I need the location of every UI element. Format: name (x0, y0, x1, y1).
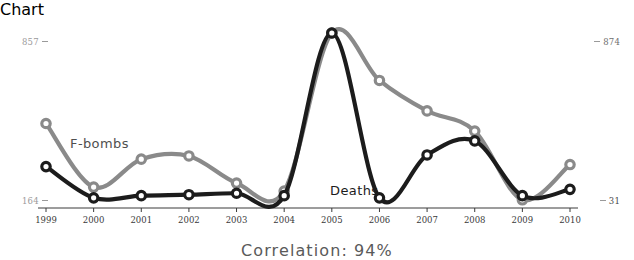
data-point-marker (471, 137, 479, 145)
series-label-deaths: Deaths (330, 183, 378, 198)
series-f-bombs (42, 29, 574, 204)
data-point-marker (232, 189, 240, 197)
x-tick-label: 2008 (464, 215, 486, 225)
data-point-marker (42, 162, 50, 170)
x-tick-label: 2009 (512, 215, 534, 225)
x-tick-label: 2002 (178, 215, 200, 225)
data-point-marker (328, 29, 336, 37)
data-point-marker (232, 179, 240, 187)
x-tick-label: 2005 (321, 215, 343, 225)
x-tick-label: 2001 (130, 215, 152, 225)
data-point-marker (423, 151, 431, 159)
data-point-marker (566, 185, 574, 193)
data-point-marker (42, 119, 50, 127)
x-tick-label: 2006 (369, 215, 391, 225)
x-tick-label: 2003 (226, 215, 248, 225)
data-point-marker (566, 160, 574, 168)
data-point-marker (137, 155, 145, 163)
series-group (42, 29, 574, 207)
data-point-marker (280, 191, 288, 199)
x-tick-label: 2004 (273, 215, 295, 225)
data-point-marker (471, 127, 479, 135)
data-point-marker (185, 191, 193, 199)
x-tick-label: 1999 (35, 215, 57, 225)
data-point-marker (185, 152, 193, 160)
correlation-caption: Correlation: 94% (0, 241, 634, 260)
x-tick-label: 2000 (83, 215, 105, 225)
x-tick-label: 2010 (559, 215, 581, 225)
x-tick-label: 2007 (416, 215, 438, 225)
x-axis (38, 208, 578, 212)
spurious-correlation-chart: 857 874 164 31 F-bombs Deaths 1999200020… (0, 19, 634, 260)
data-point-marker (89, 194, 97, 202)
data-point-marker (423, 107, 431, 115)
data-point-marker (518, 191, 526, 199)
data-point-marker (89, 183, 97, 191)
series-label-fbombs: F-bombs (70, 136, 129, 151)
data-point-marker (137, 191, 145, 199)
data-point-marker (375, 76, 383, 84)
